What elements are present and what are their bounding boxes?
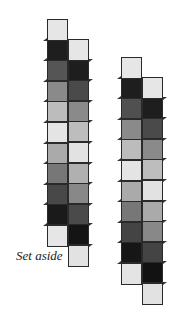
gray-swatch-cell bbox=[142, 221, 163, 242]
boundary-tick-icon bbox=[163, 97, 167, 100]
gray-swatch-cell bbox=[68, 245, 89, 267]
boundary-tick-icon bbox=[89, 162, 93, 165]
right-strip-left-column bbox=[121, 57, 142, 284]
boundary-tick-icon bbox=[89, 120, 93, 123]
right-strip-right-column bbox=[142, 77, 163, 304]
left-strip-right-column bbox=[68, 39, 89, 266]
gray-swatch-cell bbox=[47, 143, 68, 164]
gray-swatch-cell bbox=[68, 121, 89, 142]
boundary-tick-icon bbox=[43, 202, 47, 205]
gray-swatch-cell bbox=[121, 98, 142, 119]
boundary-tick-icon bbox=[117, 158, 121, 161]
boundary-tick-icon bbox=[43, 141, 47, 144]
boundary-tick-icon bbox=[43, 182, 47, 185]
gray-swatch-cell bbox=[121, 57, 142, 79]
boundary-tick-icon bbox=[43, 120, 47, 123]
boundary-tick-icon bbox=[163, 261, 167, 264]
boundary-tick-icon bbox=[117, 137, 121, 140]
boundary-tick-icon bbox=[163, 241, 167, 244]
set-aside-label: Set aside bbox=[16, 248, 63, 264]
gray-swatch-cell bbox=[142, 242, 163, 263]
boundary-tick-icon bbox=[117, 117, 121, 120]
gray-swatch-cell bbox=[47, 184, 68, 205]
gray-swatch-cell bbox=[47, 122, 68, 143]
boundary-tick-icon bbox=[163, 179, 167, 182]
boundary-tick-icon bbox=[163, 282, 167, 285]
boundary-tick-icon bbox=[43, 79, 47, 82]
boundary-tick-icon bbox=[117, 220, 121, 223]
gray-swatch-cell bbox=[47, 81, 68, 102]
gray-swatch-cell bbox=[121, 78, 142, 99]
boundary-tick-icon bbox=[43, 161, 47, 164]
gray-swatch-cell bbox=[142, 283, 163, 305]
boundary-tick-icon bbox=[117, 261, 121, 264]
gray-swatch-cell bbox=[47, 225, 68, 247]
boundary-tick-icon bbox=[117, 96, 121, 99]
gray-swatch-cell bbox=[142, 139, 163, 160]
boundary-tick-icon bbox=[163, 220, 167, 223]
left-strip-left-column bbox=[47, 19, 68, 246]
gray-swatch-cell bbox=[142, 118, 163, 139]
gray-swatch-cell bbox=[47, 19, 68, 41]
boundary-tick-icon bbox=[43, 58, 47, 61]
gray-swatch-cell bbox=[121, 181, 142, 202]
boundary-tick-icon bbox=[43, 38, 47, 41]
gray-swatch-cell bbox=[121, 201, 142, 222]
boundary-tick-icon bbox=[89, 141, 93, 144]
boundary-tick-icon bbox=[89, 79, 93, 82]
boundary-tick-icon bbox=[89, 203, 93, 206]
boundary-tick-icon bbox=[163, 117, 167, 120]
boundary-tick-icon bbox=[117, 76, 121, 79]
boundary-tick-icon bbox=[89, 223, 93, 226]
gray-swatch-cell bbox=[68, 142, 89, 163]
boundary-tick-icon bbox=[89, 59, 93, 62]
gray-swatch-cell bbox=[47, 204, 68, 225]
gray-swatch-cell bbox=[47, 101, 68, 122]
boundary-tick-icon bbox=[43, 99, 47, 102]
boundary-tick-icon bbox=[163, 200, 167, 203]
gray-swatch-cell bbox=[68, 39, 89, 61]
boundary-tick-icon bbox=[117, 199, 121, 202]
boundary-tick-icon bbox=[163, 138, 167, 141]
boundary-tick-icon bbox=[89, 182, 93, 185]
gray-swatch-cell bbox=[142, 98, 163, 119]
gray-swatch-cell bbox=[68, 204, 89, 225]
gray-swatch-cell bbox=[142, 262, 163, 283]
gray-swatch-cell bbox=[47, 60, 68, 81]
gray-swatch-cell bbox=[121, 263, 142, 285]
gray-swatch-cell bbox=[121, 139, 142, 160]
gray-swatch-cell bbox=[121, 119, 142, 140]
gray-swatch-cell bbox=[68, 101, 89, 122]
gray-swatch-cell bbox=[47, 163, 68, 184]
gray-swatch-cell bbox=[68, 80, 89, 101]
gray-swatch-cell bbox=[142, 77, 163, 99]
gray-swatch-cell bbox=[121, 222, 142, 243]
gray-swatch-cell bbox=[142, 180, 163, 201]
boundary-tick-icon bbox=[43, 223, 47, 226]
gray-swatch-cell bbox=[121, 242, 142, 263]
gray-swatch-cell bbox=[68, 60, 89, 81]
gray-swatch-cell bbox=[47, 40, 68, 61]
boundary-tick-icon bbox=[89, 244, 93, 247]
gray-swatch-cell bbox=[121, 160, 142, 181]
boundary-tick-icon bbox=[117, 179, 121, 182]
gray-swatch-cell bbox=[68, 163, 89, 184]
boundary-tick-icon bbox=[163, 158, 167, 161]
gray-swatch-cell bbox=[68, 183, 89, 204]
boundary-tick-icon bbox=[117, 240, 121, 243]
gray-swatch-cell bbox=[142, 159, 163, 180]
boundary-tick-icon bbox=[89, 100, 93, 103]
gray-swatch-cell bbox=[142, 201, 163, 222]
gray-swatch-cell bbox=[68, 224, 89, 245]
